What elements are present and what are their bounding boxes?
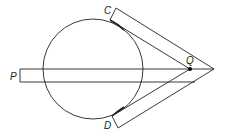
horizontal-strip [20,69,214,82]
label-q: Q [186,55,194,66]
lower-strip [112,69,214,128]
label-c: C [104,5,112,16]
label-d: D [104,120,111,131]
upper-strip [110,8,214,69]
geometry-diagram: C D P Q [0,0,225,138]
label-p: P [10,71,17,82]
point-q [188,67,192,71]
